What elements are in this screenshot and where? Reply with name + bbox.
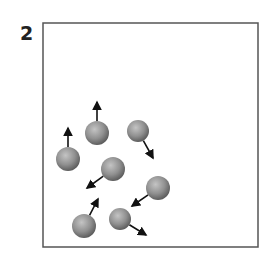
gas-particle: [127, 120, 149, 142]
gas-particle: [101, 157, 125, 181]
gas-particle: [56, 147, 80, 171]
gas-particle: [109, 208, 131, 230]
velocity-arrow-icon: [87, 176, 103, 188]
particles-group: [56, 102, 170, 238]
container-box: [43, 23, 258, 247]
gas-particle: [85, 121, 109, 145]
velocity-arrow-icon: [143, 141, 153, 158]
gas-particle: [146, 176, 170, 200]
gas-container-diagram: [0, 0, 271, 257]
velocity-arrow-icon: [129, 225, 146, 235]
velocity-arrow-icon: [90, 199, 98, 215]
velocity-arrow-icon: [132, 195, 148, 206]
gas-particle: [72, 214, 96, 238]
